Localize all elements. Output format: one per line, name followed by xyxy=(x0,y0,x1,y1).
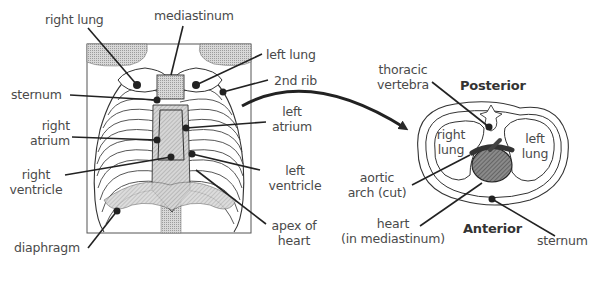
orientation-anterior: Anterior xyxy=(463,221,522,236)
label-left-atrium: left atrium xyxy=(264,104,320,134)
label-aortic-arch: aortic arch (cut) xyxy=(342,170,412,200)
label-left-lung: left lung xyxy=(266,47,316,62)
label-mediastinum: mediastinum xyxy=(154,8,234,23)
label-sternum-section: sternum xyxy=(537,233,588,248)
label-right-lung-section: right lung xyxy=(434,127,468,157)
label-left-lung-section: left lung xyxy=(518,131,552,161)
label-sternum: sternum xyxy=(11,87,62,102)
label-apex-of-heart: apex of heart xyxy=(266,218,322,248)
label-2nd-rib: 2nd rib xyxy=(274,73,317,88)
thoracic-anatomy-diagram: right lung mediastinum left lung 2nd rib… xyxy=(0,0,598,286)
label-right-ventricle: right ventricle xyxy=(4,167,68,197)
label-left-ventricle: left ventricle xyxy=(260,163,330,193)
orientation-posterior: Posterior xyxy=(460,78,526,93)
label-right-lung: right lung xyxy=(45,12,104,27)
front-view xyxy=(65,26,268,248)
label-heart-in-mediastinum: heart (in mediastinum) xyxy=(336,216,450,246)
label-diaphragm: diaphragm xyxy=(14,240,80,255)
label-right-atrium: right atrium xyxy=(14,118,70,148)
label-thoracic-vertebra: thoracic vertebra xyxy=(370,62,436,92)
